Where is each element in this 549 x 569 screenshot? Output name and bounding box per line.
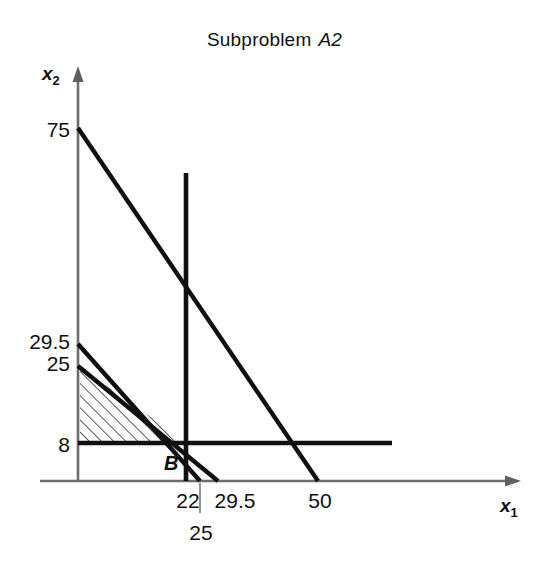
figure-subproblem-a2: SubproblemA2 x2 x1 75 29.5 25 8 22 29.5 … [0,0,549,569]
y-tick-label-25: 25 [12,353,70,374]
y-axis-label-sub: 2 [53,73,60,88]
title-emphasis: A2 [311,29,342,50]
x-axis-label-base: x [500,495,511,516]
x-tick-label-50: 50 [290,490,350,511]
y-tick-label-75: 75 [12,119,70,140]
x-tick-label-25: 25 [171,522,231,543]
vertex-label-b: B [164,453,178,473]
y-axis-arrowhead [73,66,84,82]
x-axis-label: x1 [500,496,518,519]
title-text: Subproblem [207,29,311,50]
y-tick-label-8: 8 [20,434,70,455]
x-tick-label-29-5: 29.5 [195,490,275,511]
x-axis-label-sub: 1 [511,505,518,520]
x-axis-arrowhead [505,476,521,487]
y-axis-label-base: x [42,63,53,84]
page-title: SubproblemA2 [0,30,549,49]
plot-canvas [0,0,549,569]
y-tick-label-29-5: 29.5 [4,331,70,352]
y-axis-label: x2 [42,64,60,87]
